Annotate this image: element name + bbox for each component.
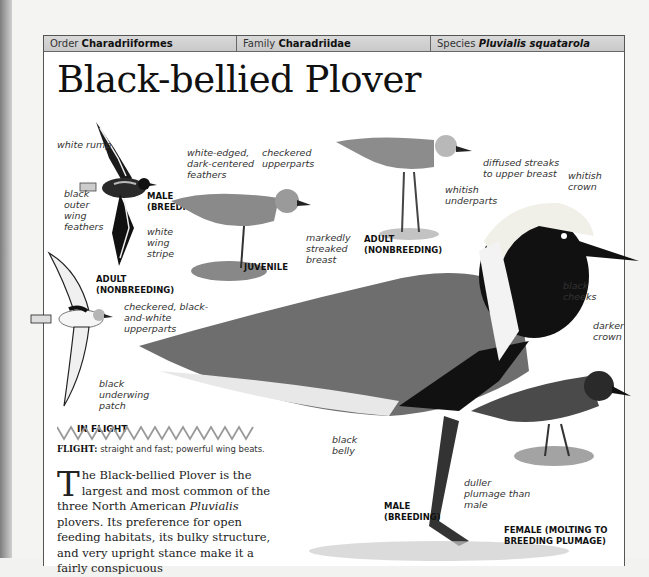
- family-value: Charadriidae: [278, 38, 351, 49]
- order-cell: Order Charadriiformes: [44, 36, 237, 51]
- label-darker-crown: darker crown: [593, 320, 633, 342]
- caption-male-breeding: MALE (BREEDING): [384, 501, 444, 523]
- order-value: Charadriiformes: [82, 38, 173, 49]
- species-panel: Order Charadriiformes Family Charadriida…: [43, 35, 625, 566]
- flight-pattern-icon: [57, 423, 257, 443]
- label-black-cheeks: black cheeks: [563, 280, 603, 302]
- family-cell: Family Charadriidae: [237, 36, 431, 51]
- label-whitish-crown: whitish crown: [568, 170, 608, 192]
- label-black-outer-wing: black outer wing feathers: [64, 188, 104, 232]
- label-checkered-upperparts: checkered upperparts: [262, 147, 312, 169]
- drop-cap: T: [57, 470, 80, 498]
- book-spine: [0, 0, 12, 558]
- label-white-rump: white rump: [57, 139, 111, 150]
- label-diffused-streaks: diffused streaks to upper breast: [483, 157, 563, 179]
- species-description: The Black-bellied Plover is the largest …: [57, 468, 287, 577]
- species-cell: Species Pluvialis squatarola: [431, 36, 624, 51]
- flight-description: FLIGHT: straight and fast; powerful wing…: [57, 444, 265, 454]
- label-checkered-upperparts-male: checkered, black-and-white upperparts: [124, 301, 214, 334]
- page-title: Black-bellied Plover: [57, 58, 421, 101]
- species-value: Pluvialis squatarola: [479, 38, 590, 49]
- label-black-belly: black belly: [332, 434, 362, 456]
- label-duller-plumage: duller plumage than male: [464, 477, 534, 510]
- taxonomy-header: Order Charadriiformes Family Charadriida…: [44, 36, 624, 52]
- female-illustration: [469, 346, 634, 466]
- label-white-edged-feathers: white-edged, dark-centered feathers: [187, 147, 267, 180]
- caption-female: FEMALE (MOLTING TO BREEDING PLUMAGE): [504, 525, 614, 547]
